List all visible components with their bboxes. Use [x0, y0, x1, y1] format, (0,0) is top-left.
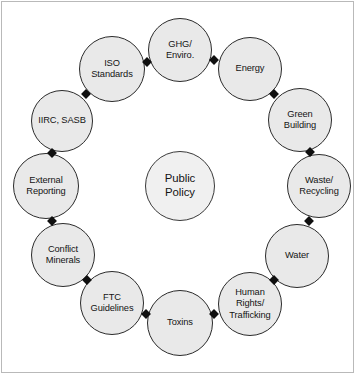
node-label: Waste/ Recycling	[297, 175, 340, 197]
node-waste-recycling[interactable]: Waste/ Recycling	[287, 154, 351, 218]
node-label: Human Rights/ Trafficking	[227, 287, 272, 321]
node-label: Toxins	[165, 317, 195, 328]
node-label: External Reporting	[24, 175, 67, 197]
node-label: Energy	[234, 63, 267, 74]
node-external-reporting[interactable]: External Reporting	[13, 153, 79, 219]
node-ghg-enviro[interactable]: GHG/ Enviro.	[148, 18, 212, 82]
node-toxins[interactable]: Toxins	[147, 290, 213, 356]
node-label: GHG/ Enviro.	[164, 39, 196, 61]
node-label: FTC Guidelines	[89, 292, 136, 314]
node-label: ISO Standards	[89, 58, 134, 80]
diagram-canvas: GHG/ Enviro.EnergyGreen BuildingWaste/ R…	[0, 0, 356, 375]
node-label: Green Building	[282, 109, 318, 131]
node-iirc-sasb[interactable]: IIRC, SASB	[31, 90, 93, 152]
node-label: Conflict Minerals	[44, 244, 82, 266]
node-green-building[interactable]: Green Building	[268, 88, 332, 152]
node-label: Water	[283, 250, 311, 261]
center-node-public-policy[interactable]: Public Policy	[145, 151, 215, 221]
node-label: IIRC, SASB	[36, 115, 88, 126]
center-node-label: Public Policy	[163, 172, 197, 199]
